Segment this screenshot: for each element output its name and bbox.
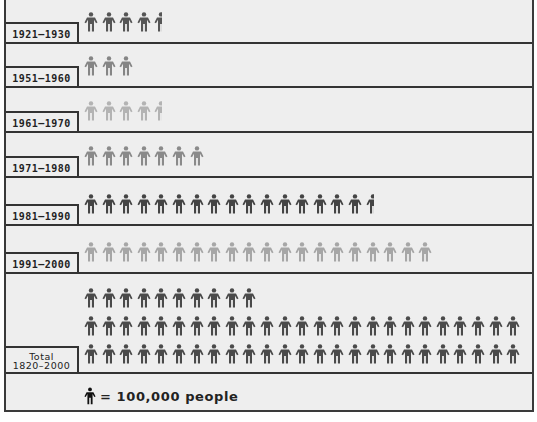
person-icon [330, 344, 348, 364]
person-icon [172, 344, 190, 364]
row-label: 1921–1930 [6, 22, 79, 42]
person-icon [471, 316, 489, 336]
person-icon [190, 344, 208, 364]
person-icon [366, 344, 384, 364]
person-icon [242, 288, 260, 308]
person-icon [260, 316, 278, 336]
person-icon [102, 194, 120, 214]
person-icon [453, 316, 471, 336]
person-icon [137, 101, 155, 121]
person-icon [102, 242, 120, 262]
person-icon [242, 242, 260, 262]
chart-row-total: Total1820–2000 [6, 274, 532, 374]
person-icon [471, 344, 489, 364]
person-icon [84, 12, 102, 32]
person-icon [119, 194, 137, 214]
person-icon [242, 194, 260, 214]
person-icon [348, 344, 366, 364]
person-icon [278, 344, 296, 364]
person-icon [102, 316, 120, 336]
legend-text: = 100,000 people [100, 389, 238, 404]
person-icon [102, 288, 120, 308]
total-label-line2: 1820–2000 [13, 361, 71, 370]
person-icon [506, 344, 524, 364]
person-icon [137, 12, 155, 32]
person-icon [154, 344, 172, 364]
person-icon [84, 146, 102, 166]
person-icon [190, 288, 208, 308]
person-icon [102, 101, 120, 121]
icon-group [84, 101, 162, 121]
person-icon [383, 316, 401, 336]
person-icon [489, 344, 507, 364]
person-icon [207, 242, 225, 262]
person-icon [295, 316, 313, 336]
person-icon [154, 194, 172, 214]
person-icon [418, 316, 436, 336]
person-icon [207, 316, 225, 336]
person-icon [119, 344, 137, 364]
person-icon [119, 56, 137, 76]
person-icon [401, 316, 419, 336]
person-icon [190, 242, 208, 262]
person-icon [260, 242, 278, 262]
person-icon [172, 316, 190, 336]
person-icon [330, 316, 348, 336]
person-icon [278, 242, 296, 262]
row-label-total: Total1820–2000 [6, 346, 79, 372]
person-icon [330, 194, 348, 214]
person-icon [401, 344, 419, 364]
icon-group [84, 12, 162, 32]
person-icon [453, 344, 471, 364]
icon-group [84, 194, 374, 214]
person-icon [401, 242, 419, 262]
person-icon [154, 288, 172, 308]
person-icon [84, 344, 102, 364]
row-label: 1981–1990 [6, 204, 79, 224]
person-icon [102, 56, 120, 76]
person-icon [278, 316, 296, 336]
person-icon [418, 344, 436, 364]
chart-row: 1991–2000 [6, 226, 532, 274]
person-icon [260, 194, 278, 214]
person-icon [84, 288, 102, 308]
person-icon [383, 242, 401, 262]
person-icon [172, 242, 190, 262]
person-icon [225, 242, 243, 262]
person-icon [278, 194, 296, 214]
row-label: 1971–1980 [6, 156, 79, 176]
person-icon [84, 386, 96, 410]
person-icon [225, 194, 243, 214]
person-icon [242, 344, 260, 364]
partial-person-icon [154, 12, 162, 32]
person-icon [119, 316, 137, 336]
person-icon [190, 194, 208, 214]
row-label: 1961–1970 [6, 111, 79, 131]
icon-group [84, 242, 436, 262]
row-label: 1951–1960 [6, 66, 79, 86]
person-icon [418, 242, 436, 262]
person-icon [119, 288, 137, 308]
person-icon [119, 242, 137, 262]
person-icon [172, 146, 190, 166]
person-icon [137, 288, 155, 308]
person-icon [436, 344, 454, 364]
legend: = 100,000 people [6, 374, 532, 410]
person-icon [366, 242, 384, 262]
person-icon [330, 242, 348, 262]
icon-group [84, 316, 524, 336]
person-icon [348, 242, 366, 262]
person-icon [102, 12, 120, 32]
person-icon [313, 242, 331, 262]
person-icon [260, 344, 278, 364]
person-icon [225, 288, 243, 308]
person-icon [119, 101, 137, 121]
person-icon [348, 316, 366, 336]
person-icon [84, 56, 102, 76]
person-icon [242, 316, 260, 336]
person-icon [383, 344, 401, 364]
person-icon [225, 316, 243, 336]
chart-row: 1981–1990 [6, 178, 532, 226]
person-icon [137, 316, 155, 336]
person-icon [225, 344, 243, 364]
